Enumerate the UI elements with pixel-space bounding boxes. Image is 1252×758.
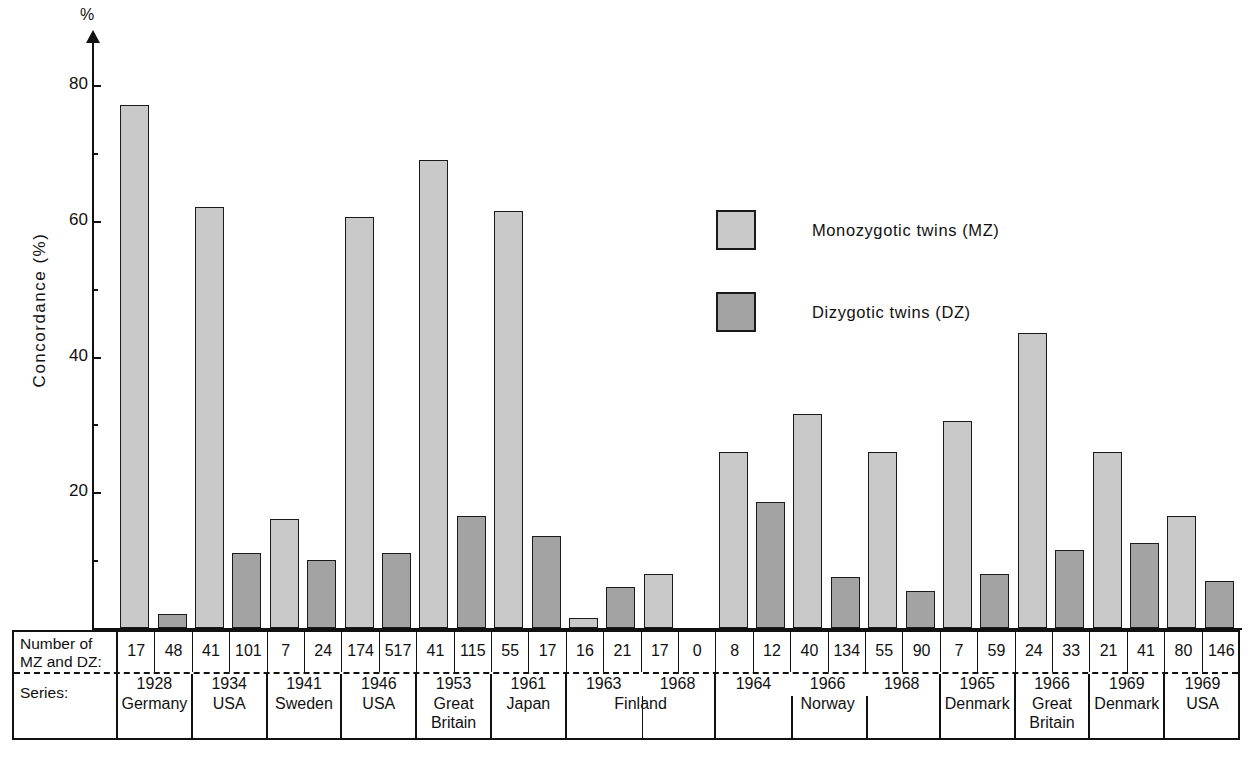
series-year-row-6: 19631968	[567, 674, 715, 694]
series-year-row-0: 1928	[118, 674, 191, 694]
table-cell-mz-0: 17	[118, 632, 155, 672]
table-cell-mz-6: 16	[567, 632, 604, 672]
table-cell-dz-3: 517	[380, 632, 417, 672]
series-country-10: Denmark	[1090, 694, 1163, 713]
table-cell-dz-6: 21	[604, 632, 641, 672]
bar-dz-0	[158, 614, 187, 628]
series-year-14: 1969	[1165, 674, 1240, 694]
table-cell-dz-10: 90	[903, 632, 940, 672]
bar-mz-11	[943, 421, 972, 628]
table-series-cell-11: 1969USA	[1165, 674, 1240, 740]
table-series-cell-7: 196419661968Norway	[716, 674, 940, 740]
bar-dz-12	[1055, 550, 1084, 628]
table-cell-mz-5: 55	[492, 632, 529, 672]
series-year-5: 1961	[492, 674, 565, 694]
table-series-cell-2: 1941Sweden	[268, 674, 343, 740]
bar-mz-8	[719, 452, 748, 628]
bar-mz-14	[1167, 516, 1196, 628]
bar-mz-12	[1018, 333, 1047, 628]
y-tick-label-40: 40	[44, 346, 88, 366]
table-cell-mz-4: 41	[417, 632, 454, 672]
series-year-row-5: 1961	[492, 674, 565, 694]
series-country-2: Sweden	[268, 694, 341, 713]
table-series-cell-10: 1969Denmark	[1090, 674, 1165, 740]
table-cell-dz-1: 101	[230, 632, 267, 672]
table-series-cell-3: 1946USA	[342, 674, 417, 740]
table-cell-mz-14: 80	[1165, 632, 1202, 672]
series-year-3: 1946	[342, 674, 415, 694]
data-table: Number of MZ and DZ: Series: 17484110172…	[12, 630, 1240, 740]
legend-item-mz: Monozygotic twins (MZ)	[716, 210, 999, 250]
table-cell-dz-4: 115	[455, 632, 492, 672]
legend-swatch-dz-icon	[716, 292, 756, 332]
bar-dz-3	[382, 553, 411, 628]
series-country-4: Great	[417, 694, 490, 713]
bar-mz-0	[120, 105, 149, 628]
series-year-row-10: 1969	[1090, 674, 1163, 694]
table-cell-dz-13: 41	[1128, 632, 1165, 672]
series-country-5: Japan	[492, 694, 565, 713]
series-country-9: Britain	[1016, 713, 1089, 732]
table-series-cell-0: 1928Germany	[118, 674, 193, 740]
series-year-row-4: 1953	[417, 674, 490, 694]
legend-label-mz: Monozygotic twins (MZ)	[812, 221, 999, 240]
series-country-7: Norway	[716, 694, 938, 713]
series-year-row-3: 1946	[342, 674, 415, 694]
series-year-2: 1941	[268, 674, 341, 694]
y-axis-title: Concordance (%)	[30, 180, 50, 440]
bar-mz-3	[345, 217, 374, 628]
series-country-3: USA	[342, 694, 415, 713]
table-series-cell-5: 1961Japan	[492, 674, 567, 740]
table-series-cell-8: 1965Denmark	[941, 674, 1016, 740]
bar-mz-4	[419, 160, 448, 628]
series-inner-divider-7-2	[866, 696, 868, 740]
bar-dz-13	[1130, 543, 1159, 628]
series-country-9: Great	[1016, 694, 1089, 713]
bar-dz-11	[980, 574, 1009, 628]
series-year-row-1: 1934	[193, 674, 266, 694]
bar-mz-1	[195, 207, 224, 628]
series-year-row-9: 1966	[1016, 674, 1089, 694]
series-country-8: Denmark	[941, 694, 1014, 713]
table-cell-dz-2: 24	[305, 632, 342, 672]
y-tick-label-80: 80	[44, 74, 88, 94]
table-cell-mz-13: 21	[1090, 632, 1127, 672]
table-series-cell-4: 1953GreatBritain	[417, 674, 492, 740]
bar-mz-13	[1093, 452, 1122, 628]
series-year-9: 1966	[791, 674, 865, 694]
series-inner-divider-6-1	[642, 696, 644, 740]
series-year-row-7: 196419661968	[716, 674, 938, 694]
series-year-row-11: 1969	[1165, 674, 1240, 694]
series-year-1: 1934	[193, 674, 266, 694]
chart-figure: % 80604020 Concordance (%) Monozygotic t…	[0, 0, 1252, 758]
series-country-6: Finland	[567, 694, 715, 713]
table-cell-dz-11: 59	[978, 632, 1015, 672]
bar-dz-14	[1205, 581, 1234, 629]
table-cell-mz-7: 17	[642, 632, 679, 672]
bar-dz-2	[307, 560, 336, 628]
table-series-cell-9: 1966GreatBritain	[1016, 674, 1091, 740]
bar-dz-4	[457, 516, 486, 628]
series-year-7: 1968	[641, 674, 715, 694]
series-year-11: 1965	[941, 674, 1014, 694]
legend-swatch-mz-icon	[716, 210, 756, 250]
series-year-12: 1966	[1016, 674, 1089, 694]
bar-mz-6	[569, 618, 598, 628]
table-series-cell-1: 1934USA	[193, 674, 268, 740]
legend-label-dz: Dizygotic twins (DZ)	[812, 303, 971, 322]
series-inner-divider-7-1	[791, 696, 793, 740]
bar-mz-7	[644, 574, 673, 628]
y-tick-label-20: 20	[44, 481, 88, 501]
series-country-11: USA	[1165, 694, 1240, 713]
table-row-series: 1928Germany1934USA1941Sweden1946USA1953G…	[14, 674, 1238, 740]
table-cell-mz-9: 40	[791, 632, 828, 672]
bar-dz-1	[232, 553, 261, 628]
series-country-0: Germany	[118, 694, 191, 713]
bar-dz-5	[532, 536, 561, 628]
bar-mz-5	[494, 211, 523, 628]
table-cell-dz-12: 33	[1053, 632, 1090, 672]
bar-mz-10	[868, 452, 897, 628]
bar-dz-10	[906, 591, 935, 628]
table-cell-dz-9: 134	[829, 632, 866, 672]
table-cell-mz-1: 41	[193, 632, 230, 672]
